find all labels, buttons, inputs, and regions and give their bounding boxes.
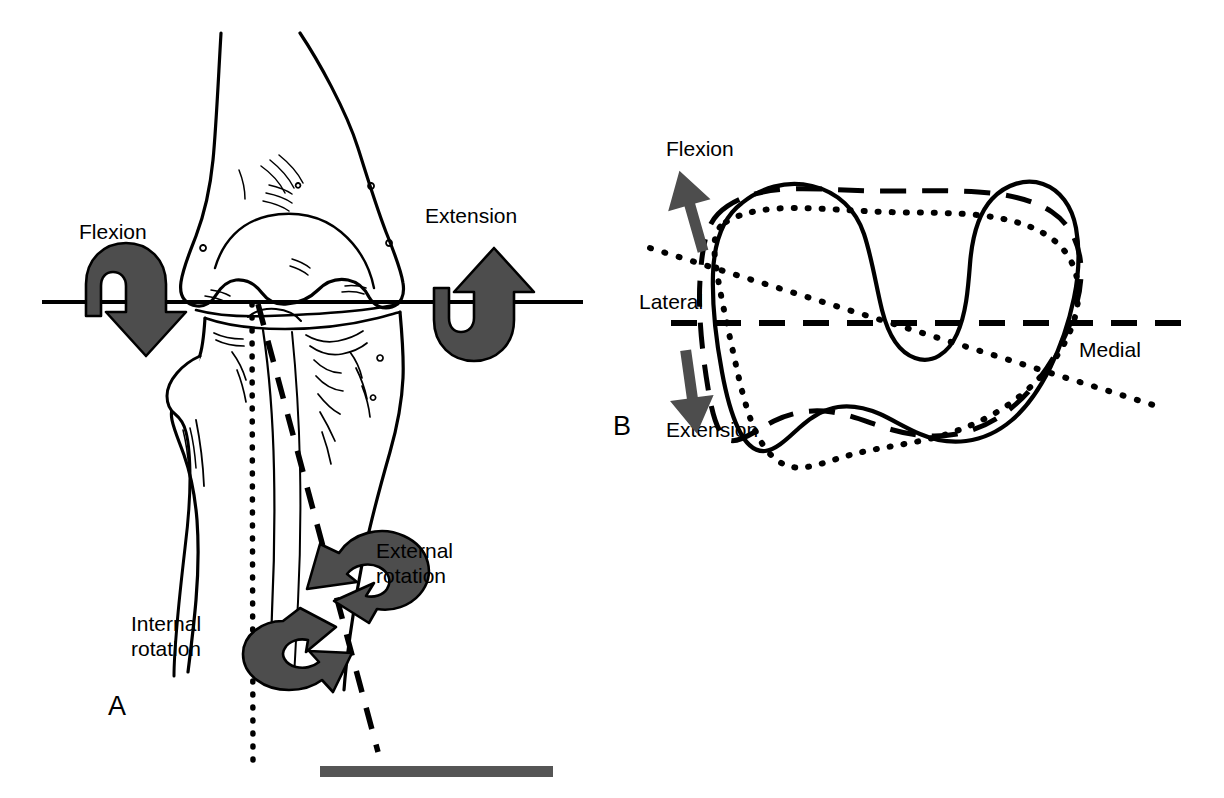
panel-b-flexion-label: Flexion: [666, 136, 734, 161]
panel-b-extension-arrow: [655, 348, 725, 438]
tibia-outline-right: [344, 312, 403, 690]
panel-a-flexion-label: Flexion: [79, 219, 147, 244]
panel-a-extension-label: Extension: [425, 203, 517, 228]
figure-root: Flexion Extension External rotation Inte…: [0, 0, 1224, 798]
scale-bar: [320, 766, 553, 777]
joint-line-structures: [196, 304, 398, 316]
down-arrow-icon: [663, 348, 718, 437]
panel-b-letter: B: [613, 411, 631, 442]
flexion-rotation-arrow: [86, 243, 186, 356]
panel-b-flexion-arrow: [655, 165, 725, 255]
figure-canvas: [0, 0, 1224, 798]
panel-b-solid-contour: [713, 182, 1079, 451]
internal-rotation-axis-line: [252, 304, 253, 762]
panel-a-external-rotation-label: External rotation: [376, 538, 453, 588]
up-arrow-icon: [658, 165, 723, 255]
oblique-dotted-axis-line: [650, 248, 1163, 408]
extension-rotation-arrow: [434, 248, 534, 361]
panel-b-medial-label: Medial: [1079, 337, 1141, 362]
panel-b-lateral-label: Lateral: [639, 289, 703, 314]
panel-b-dashed-contour: [699, 189, 1081, 441]
panel-a-internal-rotation-label: Internal rotation: [131, 611, 201, 661]
internal-rotation-arrow: [243, 608, 352, 692]
panel-a-letter: A: [108, 691, 126, 722]
